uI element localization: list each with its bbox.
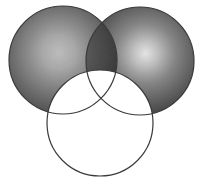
- figure-canvas: [0, 0, 204, 188]
- overlapping-circles-diagram: [0, 0, 204, 188]
